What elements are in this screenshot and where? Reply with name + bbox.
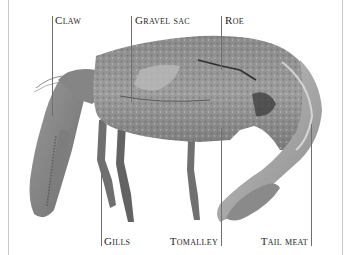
label-gravel-sac: Gravel sac [135,14,190,26]
claw-leader-line [52,16,53,116]
gills-leader-line [101,143,102,246]
roe-leader-line [221,16,222,70]
body-shape [93,36,318,150]
label-gills: Gills [104,235,130,247]
tail-meat-leader-line [311,124,312,246]
label-claw: Claw [55,14,81,26]
label-tail-meat: Tail meat [261,235,308,247]
tomalley-leader-line [221,128,222,246]
gravel-sac-leader-line [131,16,132,102]
label-tomalley: Tomalley [170,235,218,247]
label-roe: Roe [225,14,244,26]
